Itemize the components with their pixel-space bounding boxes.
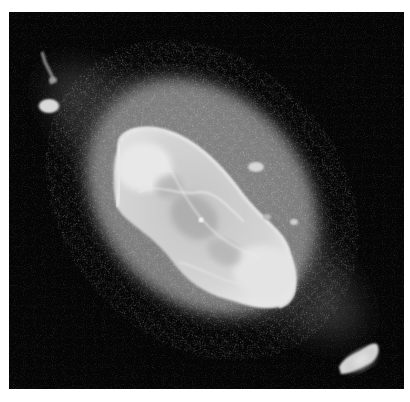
nebula-image-frame xyxy=(9,12,404,389)
nebula-image xyxy=(9,12,404,389)
